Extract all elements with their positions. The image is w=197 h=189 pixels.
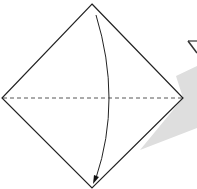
paper-square [2, 4, 183, 188]
origami-diagram [0, 0, 197, 189]
next-step-triangle-edge [188, 41, 197, 53]
